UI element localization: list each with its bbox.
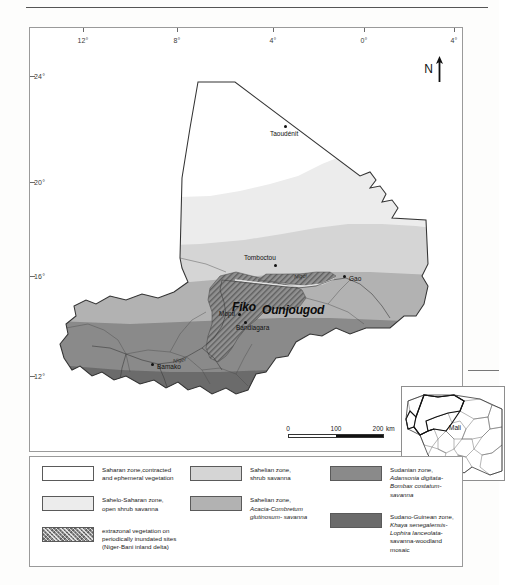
site-label-ounjougod: Ounjougod bbox=[262, 303, 324, 317]
page-right-rule bbox=[468, 370, 499, 371]
city-label-tomboctou: Tomboctou bbox=[244, 254, 276, 261]
legend-swatch-sahelian-shrub bbox=[190, 466, 242, 481]
scale-segment-light bbox=[289, 435, 336, 437]
legend-line: Sahelian zone, bbox=[250, 466, 291, 474]
legend-column-2: Sahelian zone, shrub savanna Sahelian zo… bbox=[190, 466, 325, 535]
legend-line: Adansonia digitata- bbox=[390, 474, 460, 482]
site-label-fiko: Fiko bbox=[232, 300, 256, 314]
city-label-gao: Gao bbox=[349, 275, 361, 282]
scale-unit: km bbox=[386, 425, 395, 432]
legend-line: Bombax costatum-savanna bbox=[390, 482, 460, 498]
legend-line: extrazonal vegetation on bbox=[102, 527, 176, 535]
legend-line: Sudanian zone, bbox=[390, 466, 460, 474]
legend-line: glutinosum- savanna bbox=[250, 513, 307, 521]
scale-segment-dark bbox=[336, 435, 383, 437]
map-frame: 12° 8° 4° 0° 4° 24° 20° 16° 12° bbox=[29, 27, 463, 452]
legend-line: savanna-woodland mosaic bbox=[390, 537, 460, 553]
legend-item-sahelian-shrub: Sahelian zone, shrub savanna bbox=[190, 466, 325, 482]
legend-swatch-sahelian-acacia bbox=[190, 496, 242, 511]
scale-value-0: 0 bbox=[286, 425, 290, 432]
north-arrow-label: N bbox=[424, 62, 433, 76]
legend-line: periodically inundated sites bbox=[102, 535, 176, 543]
legend-item-sahelo-saharan: Sahelo-Saharan zone, open shrub savanna bbox=[42, 496, 184, 512]
legend-line: Acacia-Combretum bbox=[250, 505, 307, 513]
city-label-taoudenit: Taoudénit bbox=[270, 130, 298, 137]
legend-line: Sudano-Guinean zone, bbox=[390, 513, 460, 521]
inset-country-label: Mali bbox=[449, 424, 461, 431]
legend-line: Sahelo-Saharan zone, bbox=[102, 496, 164, 504]
legend-item-inland-delta: extrazonal vegetation on periodically in… bbox=[42, 527, 184, 552]
legend-line: Sahelian zone, bbox=[250, 496, 307, 504]
legend-swatch-sahelo-saharan bbox=[42, 496, 94, 511]
legend-swatch-sudano-guinean bbox=[330, 513, 382, 528]
legend-label-sudano-guinean: Sudano-Guinean zone, Khaya senegalensis-… bbox=[390, 513, 460, 554]
legend-swatch-sudanian bbox=[330, 466, 382, 481]
legend-label-sahelian-acacia: Sahelian zone, Acacia-Combretum glutinos… bbox=[250, 496, 307, 521]
north-arrow-icon bbox=[435, 56, 444, 82]
mali-vegetation-map bbox=[30, 28, 464, 453]
legend-line: Lophira lanceolata- bbox=[390, 529, 460, 537]
legend-label-saharan: Saharan zone,contracted and ephemeral ve… bbox=[102, 466, 174, 482]
page-top-rule bbox=[26, 7, 488, 8]
legend-line: shrub savanna bbox=[250, 474, 291, 482]
legend: Saharan zone,contracted and ephemeral ve… bbox=[29, 456, 463, 567]
legend-item-sudanian: Sudanian zone, Adansonia digitata- Bomba… bbox=[330, 466, 460, 499]
legend-item-sudano-guinean: Sudano-Guinean zone, Khaya senegalensis-… bbox=[330, 513, 460, 554]
scale-value-200: 200 bbox=[373, 425, 384, 432]
legend-label-sudanian: Sudanian zone, Adansonia digitata- Bomba… bbox=[390, 466, 460, 499]
legend-swatch-saharan bbox=[42, 466, 94, 481]
scale-bar: 0 100 200 km bbox=[288, 425, 384, 438]
legend-swatch-inland-delta bbox=[42, 527, 94, 542]
scale-value-100: 100 bbox=[331, 425, 342, 432]
legend-label-inland-delta: extrazonal vegetation on periodically in… bbox=[102, 527, 176, 552]
legend-column-3: Sudanian zone, Adansonia digitata- Bomba… bbox=[330, 466, 460, 568]
city-label-bandiagara: Bandiagara bbox=[236, 324, 269, 331]
legend-item-saharan: Saharan zone,contracted and ephemeral ve… bbox=[42, 466, 184, 482]
city-label-bamako: Bamako bbox=[157, 363, 181, 370]
legend-line: open shrub savanna bbox=[102, 505, 164, 513]
legend-line: Khaya senegalensis- bbox=[390, 521, 460, 529]
legend-line: Saharan zone,contracted bbox=[102, 466, 174, 474]
legend-label-sahelo-saharan: Sahelo-Saharan zone, open shrub savanna bbox=[102, 496, 164, 512]
legend-label-sahelian-shrub: Sahelian zone, shrub savanna bbox=[250, 466, 291, 482]
north-arrow: N bbox=[424, 56, 444, 82]
legend-line: and ephemeral vegetation bbox=[102, 474, 174, 482]
legend-column-1: Saharan zone,contracted and ephemeral ve… bbox=[42, 466, 184, 565]
legend-item-sahelian-acacia: Sahelian zone, Acacia-Combretum glutinos… bbox=[190, 496, 325, 521]
legend-line: (Niger-Bani inland delta) bbox=[102, 543, 176, 551]
